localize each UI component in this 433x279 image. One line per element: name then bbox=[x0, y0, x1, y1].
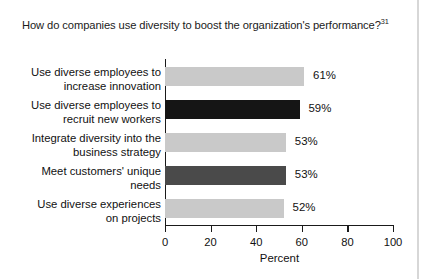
bar-1 bbox=[165, 100, 300, 119]
bar-row-2: 53% bbox=[165, 126, 393, 159]
category-label-2-line-1: business strategy bbox=[0, 146, 161, 160]
bar-value-0: 61% bbox=[313, 69, 336, 81]
chart-title-footnote-marker: 31 bbox=[381, 17, 389, 26]
category-label-4-line-1: on projects bbox=[0, 212, 161, 226]
x-tick-100 bbox=[393, 226, 394, 232]
chart-title-text: How do companies use diversity to boost … bbox=[22, 19, 381, 31]
bar-0 bbox=[165, 67, 304, 86]
category-label-3-line-0: Meet customers' unique bbox=[0, 165, 161, 179]
x-tick-0 bbox=[165, 226, 166, 232]
bar-4 bbox=[165, 199, 284, 218]
category-label-3: Meet customers' unique needs bbox=[0, 165, 161, 192]
bar-value-2: 53% bbox=[295, 135, 318, 147]
x-tick-60 bbox=[302, 226, 303, 232]
bar-chart-figure: How do companies use diversity to boost … bbox=[0, 0, 433, 279]
x-tick-40 bbox=[256, 226, 257, 232]
x-tick-label-80: 80 bbox=[341, 236, 353, 248]
x-tick-label-20: 20 bbox=[204, 236, 216, 248]
page-edge-artifact bbox=[417, 0, 419, 279]
bar-row-3: 53% bbox=[165, 159, 393, 192]
bar-row-1: 59% bbox=[165, 93, 393, 126]
category-label-0-line-0: Use diverse employees to bbox=[0, 66, 161, 80]
category-label-1: Use diverse employees to recruit new wor… bbox=[0, 99, 161, 126]
category-label-2: Integrate diversity into the business st… bbox=[0, 132, 161, 159]
category-label-1-line-0: Use diverse employees to bbox=[0, 99, 161, 113]
category-label-0-line-1: increase innovation bbox=[0, 80, 161, 94]
bar-value-1: 59% bbox=[309, 102, 332, 114]
x-tick-label-40: 40 bbox=[250, 236, 262, 248]
bar-2 bbox=[165, 133, 286, 152]
x-axis-title: Percent bbox=[165, 252, 394, 264]
x-tick-80 bbox=[347, 226, 348, 232]
x-axis-line bbox=[165, 225, 394, 226]
bar-row-0: 61% bbox=[165, 60, 393, 93]
bar-value-4: 52% bbox=[293, 201, 316, 213]
category-label-3-line-1: needs bbox=[0, 179, 161, 193]
category-label-2-line-0: Integrate diversity into the bbox=[0, 132, 161, 146]
category-label-4: Use diverse experiences on projects bbox=[0, 198, 161, 225]
bar-value-3: 53% bbox=[295, 168, 318, 180]
chart-title: How do companies use diversity to boost … bbox=[22, 19, 389, 31]
category-label-0: Use diverse employees to increase innova… bbox=[0, 66, 161, 93]
x-tick-20 bbox=[211, 226, 212, 232]
x-tick-label-100: 100 bbox=[384, 236, 403, 248]
bar-3 bbox=[165, 166, 286, 185]
category-label-4-line-0: Use diverse experiences bbox=[0, 198, 161, 212]
x-tick-label-60: 60 bbox=[296, 236, 308, 248]
category-label-1-line-1: recruit new workers bbox=[0, 113, 161, 127]
plot-area: 61% 59% 53% 53% 52% bbox=[165, 60, 393, 225]
bar-row-4: 52% bbox=[165, 192, 393, 225]
x-tick-label-0: 0 bbox=[162, 236, 168, 248]
